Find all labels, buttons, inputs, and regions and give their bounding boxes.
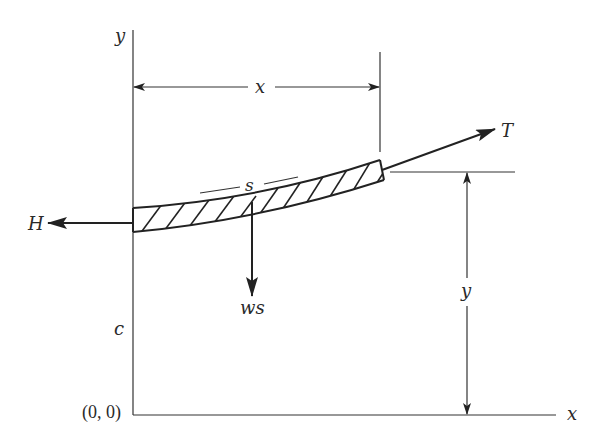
- dim-y-label: y: [460, 280, 472, 301]
- hatching: [128, 150, 398, 250]
- force-T-label: T: [501, 120, 515, 141]
- dimension-y: y: [390, 172, 515, 414]
- x-axis-label: x: [567, 403, 577, 424]
- segment-bottom-edge: [133, 180, 384, 232]
- forces: H T ws: [27, 120, 515, 318]
- arc-length-dash-right: [264, 177, 298, 184]
- cable-free-body-diagram: y x (0, 0) c x s: [0, 0, 609, 445]
- dimension-x: x: [134, 52, 380, 152]
- cable-segment: s: [128, 150, 398, 250]
- arc-length-dash-left: [200, 187, 240, 193]
- force-ws-label: ws: [240, 297, 265, 318]
- arc-length-label: s: [245, 175, 254, 195]
- force-H-label: H: [27, 213, 44, 234]
- dim-x-label: x: [255, 76, 265, 97]
- origin-label: (0, 0): [82, 402, 121, 423]
- y-axis-label: y: [114, 25, 126, 46]
- segment-top-edge: [133, 160, 380, 208]
- axes: y x (0, 0) c: [82, 25, 577, 424]
- c-label: c: [114, 318, 124, 339]
- force-T-arrow: [382, 129, 495, 170]
